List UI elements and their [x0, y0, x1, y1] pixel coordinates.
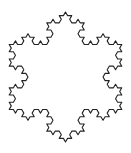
- koch-snowflake-figure: [0, 0, 131, 153]
